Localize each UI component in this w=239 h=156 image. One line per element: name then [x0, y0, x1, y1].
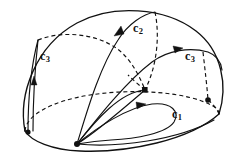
label-c2-top: c2 — [133, 22, 143, 34]
arrow-c2 — [114, 26, 124, 36]
c3-right-band-path — [77, 50, 222, 144]
label-c2-top-sub: 2 — [139, 26, 143, 36]
c3-right-dashed-leg-path — [203, 52, 208, 100]
label-c3-right-base: c — [185, 49, 191, 63]
vertex-left-foot — [25, 129, 30, 134]
arrow-c3-right — [173, 46, 183, 53]
c2-dashed-descent-path — [145, 12, 157, 90]
vertex-equator-right — [205, 97, 211, 103]
label-c3-left-sub: 3 — [46, 54, 50, 64]
label-c3-left-base: c — [40, 49, 46, 63]
dome-diagram — [0, 0, 239, 156]
vertex-basepoint — [74, 141, 80, 147]
label-c3-left: c3 — [40, 50, 50, 62]
vertex-equator-mid — [142, 87, 148, 93]
figure-container: c3 c2 c3 c1 — [0, 0, 239, 156]
equator-back-arc-path — [25, 92, 219, 131]
c3-left-dashed-arc-path — [38, 34, 145, 90]
label-c1-front: c1 — [172, 108, 182, 120]
equator-front-arc-path — [25, 114, 219, 151]
label-c2-top-base: c — [133, 21, 139, 35]
c2-meridian-path — [77, 12, 155, 144]
c3-left-meridian-inner-path — [33, 40, 38, 131]
label-c3-right-sub: 3 — [191, 54, 195, 64]
label-c1-front-base: c — [172, 107, 178, 121]
label-c1-front-sub: 1 — [178, 112, 182, 122]
arrow-c3-left — [31, 76, 37, 85]
label-c3-right: c3 — [185, 50, 195, 62]
